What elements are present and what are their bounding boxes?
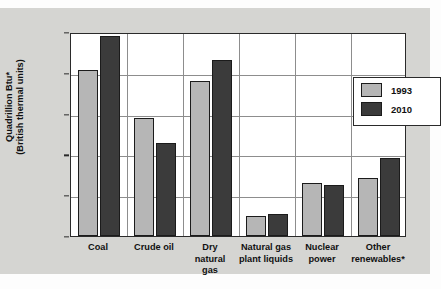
bar-2010-0 <box>100 36 121 236</box>
y-tick-mark <box>64 73 69 74</box>
bar-1993-3 <box>246 216 267 236</box>
y-tick-mark <box>64 114 69 115</box>
bar-2010-1 <box>156 143 177 236</box>
y-tick-mark <box>64 155 69 156</box>
gridline-vertical <box>127 34 128 236</box>
chart-legend: 1993 2010 <box>353 77 441 126</box>
legend-label-1993: 1993 <box>391 85 412 96</box>
gridline-horizontal <box>71 75 405 76</box>
gridline-horizontal <box>71 156 405 157</box>
bar-1993-2 <box>190 81 211 236</box>
legend-swatch-2010 <box>361 102 382 116</box>
chart-figure: Quadrillion Btu* (British thermal units)… <box>0 8 430 274</box>
gridline-vertical <box>183 34 184 236</box>
legend-entry-2010: 2010 <box>361 102 440 116</box>
bar-2010-2 <box>212 60 233 236</box>
y-axis-title: Quadrillion Btu* (British thermal units) <box>4 32 26 182</box>
gridline-vertical <box>239 34 240 236</box>
bar-1993-0 <box>78 70 99 236</box>
legend-entry-1993: 1993 <box>361 83 440 97</box>
y-tick-mark <box>64 196 69 197</box>
plot-area: 1993 2010 <box>70 33 406 237</box>
gridline-vertical <box>351 34 352 236</box>
x-tick-label: Otherrenewables* <box>332 242 424 265</box>
bar-2010-4 <box>324 185 345 236</box>
legend-label-2010: 2010 <box>391 104 412 115</box>
y-tick-mark <box>64 236 69 237</box>
y-axis-title-line2: (British thermal units) <box>15 59 25 154</box>
bar-1993-1 <box>134 118 155 236</box>
bar-1993-5 <box>358 178 379 236</box>
legend-swatch-1993 <box>361 83 382 97</box>
y-axis-title-line1: Quadrillion Btu* <box>4 72 14 142</box>
bar-2010-5 <box>380 158 401 236</box>
bar-1993-4 <box>302 183 323 236</box>
bar-2010-3 <box>268 214 289 236</box>
gridline-horizontal <box>71 197 405 198</box>
y-tick-mark <box>64 32 69 33</box>
gridline-vertical <box>295 34 296 236</box>
